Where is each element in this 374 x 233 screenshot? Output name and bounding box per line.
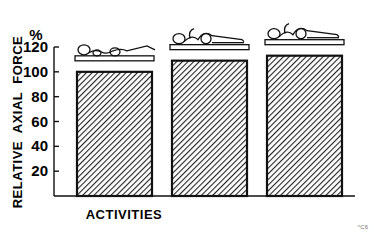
y-tick-label: 40 [31, 137, 48, 154]
activity-icon-3 [265, 24, 344, 45]
y-tick-label: 60 [31, 113, 48, 130]
bar-3 [267, 56, 342, 196]
activity-icon-2 [170, 29, 249, 50]
y-tick-label: 20 [31, 162, 48, 179]
bar-2 [172, 61, 247, 196]
bars [77, 56, 342, 196]
x-axis-label: ACTIVITIES [86, 207, 163, 222]
y-unit-label: % [29, 26, 42, 43]
footnote: ^C6 [358, 224, 369, 230]
activity-icon-1 [75, 45, 155, 61]
bar-chart: 20406080100120 % RELATIVE AXIAL FORCE AC… [0, 0, 374, 233]
y-tick-label: 100 [23, 63, 48, 80]
bar-1 [77, 72, 152, 196]
y-axis-label: RELATIVE AXIAL FORCE [10, 36, 25, 209]
y-tick-label: 80 [31, 88, 48, 105]
